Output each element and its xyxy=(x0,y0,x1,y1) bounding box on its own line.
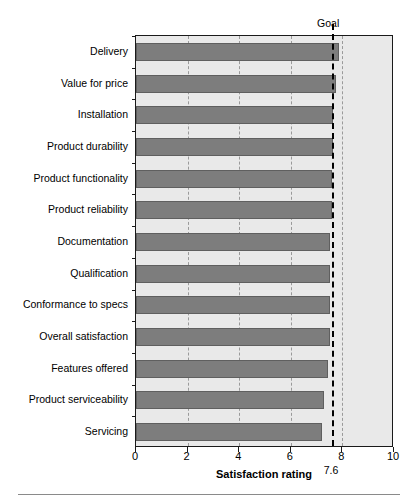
category-tick xyxy=(132,163,136,164)
bar xyxy=(136,75,336,93)
category-label: Installation xyxy=(0,108,128,120)
category-tick xyxy=(132,258,136,259)
satisfaction-rating-bar-chart: DeliveryValue for priceInstallationProdu… xyxy=(0,0,418,504)
category-tick xyxy=(132,226,136,227)
x-tick-label: 8 xyxy=(326,450,356,462)
x-tick-label: 6 xyxy=(275,450,305,462)
bar xyxy=(136,328,330,346)
goal-label: Goal xyxy=(317,17,339,29)
category-label: Features offered xyxy=(0,362,128,374)
bar xyxy=(136,138,333,156)
category-tick xyxy=(132,385,136,386)
category-label: Delivery xyxy=(0,45,128,57)
category-tick xyxy=(132,290,136,291)
goal-line xyxy=(332,24,334,446)
category-label: Product reliability xyxy=(0,203,128,215)
gridline-x-8 xyxy=(342,36,343,446)
category-tick xyxy=(132,321,136,322)
bar xyxy=(136,106,333,124)
bar xyxy=(136,423,322,441)
plot-area xyxy=(135,35,393,447)
category-label: Qualification xyxy=(0,267,128,279)
bar xyxy=(136,201,332,219)
bar xyxy=(136,265,330,283)
category-tick xyxy=(132,131,136,132)
x-tick-label: 4 xyxy=(223,450,253,462)
category-label: Servicing xyxy=(0,425,128,437)
bar xyxy=(136,233,330,251)
category-tick xyxy=(132,416,136,417)
x-tick-label: 2 xyxy=(172,450,202,462)
category-axis-labels: DeliveryValue for priceInstallationProdu… xyxy=(0,35,128,447)
category-label: Documentation xyxy=(0,235,128,247)
category-label: Overall satisfaction xyxy=(0,330,128,342)
plot-inner xyxy=(136,36,392,446)
footer-divider xyxy=(18,494,400,495)
category-label: Value for price xyxy=(0,77,128,89)
x-axis-title: Satisfaction rating xyxy=(135,468,393,480)
category-tick xyxy=(132,99,136,100)
category-tick xyxy=(132,353,136,354)
category-tick xyxy=(132,68,136,69)
bar xyxy=(136,391,324,409)
bar xyxy=(136,43,339,61)
category-label: Conformance to specs xyxy=(0,298,128,310)
category-label: Product functionality xyxy=(0,172,128,184)
category-label: Product serviceability xyxy=(0,393,128,405)
x-tick-label: 0 xyxy=(120,450,150,462)
category-tick xyxy=(132,194,136,195)
bar xyxy=(136,360,328,378)
bar xyxy=(136,296,330,314)
bar xyxy=(136,170,332,188)
category-label: Product durability xyxy=(0,140,128,152)
x-tick-label: 10 xyxy=(378,450,408,462)
category-tick xyxy=(132,36,136,37)
